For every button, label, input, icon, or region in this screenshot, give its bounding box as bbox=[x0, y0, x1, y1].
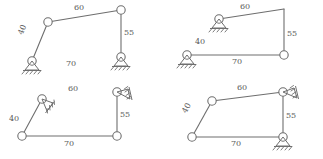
label-ground-length: 70 bbox=[231, 140, 241, 148]
label-right-crank-length: 55 bbox=[124, 29, 134, 37]
linkage-diagram-panel-4: 60 40 55 70 bbox=[161, 79, 322, 158]
label-coupler-length: 60 bbox=[240, 3, 250, 11]
joint-pin-top-left bbox=[44, 18, 52, 26]
support-pin-ground-right bbox=[111, 53, 130, 70]
label-right-crank-length: 55 bbox=[120, 111, 130, 119]
support-pin-ground-left bbox=[22, 57, 41, 74]
linkage-diagram-panel-3: 60 40 55 70 bbox=[0, 79, 161, 158]
label-left-crank-length: 40 bbox=[195, 38, 205, 46]
four-bar-linkage-figure: 60 40 55 70 bbox=[0, 0, 323, 159]
support-pin-ground-upper-right bbox=[279, 86, 299, 100]
label-coupler-length: 60 bbox=[237, 84, 247, 92]
label-ground-length: 70 bbox=[232, 58, 242, 66]
joint-pin-bottom-right bbox=[280, 51, 288, 59]
member-left-crank bbox=[32, 22, 48, 61]
label-right-crank-length: 55 bbox=[286, 112, 296, 120]
support-pin-ground-upper-left bbox=[209, 15, 228, 32]
linkage-diagram-panel-2: 60 40 55 70 bbox=[161, 0, 322, 79]
panel-2-drawing bbox=[161, 0, 322, 79]
member-coupler bbox=[48, 10, 121, 22]
member-coupler bbox=[219, 9, 284, 19]
linkage-diagram-panel-1: 60 40 55 70 bbox=[0, 0, 161, 79]
support-pin-ground-upper-left bbox=[38, 95, 55, 113]
joint-pin-bottom-right bbox=[113, 132, 121, 140]
member-left-crank bbox=[22, 99, 42, 136]
joint-pin-bottom-left bbox=[188, 133, 196, 141]
member-coupler bbox=[212, 92, 283, 101]
label-ground-length: 70 bbox=[64, 140, 74, 148]
label-coupler-length: 60 bbox=[68, 85, 78, 93]
support-pin-ground-lower-right bbox=[273, 133, 292, 150]
panel-3-drawing bbox=[0, 79, 161, 158]
joint-pin-top-left bbox=[208, 97, 216, 105]
label-left-crank-length: 40 bbox=[9, 115, 19, 123]
label-right-crank-length: 55 bbox=[287, 30, 297, 38]
support-pin-ground-upper-right bbox=[113, 87, 132, 101]
support-pin-ground-lower-left bbox=[177, 51, 196, 68]
member-left-crank bbox=[192, 101, 212, 137]
label-ground-length: 70 bbox=[66, 60, 76, 68]
joint-pin-top-right bbox=[117, 6, 125, 14]
joint-pin-bottom-left bbox=[18, 132, 26, 140]
label-coupler-length: 60 bbox=[74, 4, 84, 12]
